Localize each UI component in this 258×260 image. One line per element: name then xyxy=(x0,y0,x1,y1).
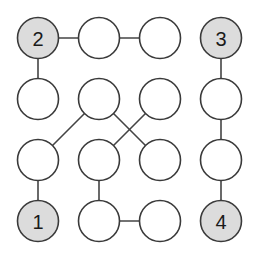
node-circle[interactable] xyxy=(18,201,59,242)
node-circle[interactable] xyxy=(201,18,242,59)
empty-node[interactable] xyxy=(201,79,242,120)
node-circle[interactable] xyxy=(18,79,59,120)
empty-node[interactable] xyxy=(140,201,181,242)
node-circle[interactable] xyxy=(18,18,59,59)
node-circle[interactable] xyxy=(79,201,120,242)
node-circle[interactable] xyxy=(79,140,120,181)
given-node-3[interactable]: 3 xyxy=(201,18,242,59)
node-circle[interactable] xyxy=(140,201,181,242)
node-circle[interactable] xyxy=(201,79,242,120)
node-circle[interactable] xyxy=(79,79,120,120)
node-circle[interactable] xyxy=(201,201,242,242)
given-node-1[interactable]: 1 xyxy=(18,201,59,242)
empty-node[interactable] xyxy=(140,79,181,120)
empty-node[interactable] xyxy=(79,18,120,59)
edge-layer xyxy=(38,38,221,221)
empty-node[interactable] xyxy=(18,140,59,181)
node-circle[interactable] xyxy=(201,140,242,181)
node-circle[interactable] xyxy=(140,18,181,59)
node-circle[interactable] xyxy=(79,18,120,59)
empty-node[interactable] xyxy=(201,140,242,181)
puzzle-board: 2314 xyxy=(0,0,258,260)
empty-node[interactable] xyxy=(18,79,59,120)
node-circle[interactable] xyxy=(18,140,59,181)
empty-node[interactable] xyxy=(79,140,120,181)
given-node-4[interactable]: 4 xyxy=(201,201,242,242)
empty-node[interactable] xyxy=(140,140,181,181)
given-node-2[interactable]: 2 xyxy=(18,18,59,59)
empty-node[interactable] xyxy=(79,79,120,120)
empty-node[interactable] xyxy=(140,18,181,59)
node-circle[interactable] xyxy=(140,140,181,181)
node-circle[interactable] xyxy=(140,79,181,120)
empty-node[interactable] xyxy=(79,201,120,242)
